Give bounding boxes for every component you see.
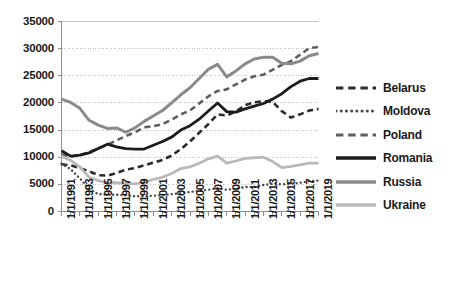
legend-swatch-belarus-icon — [336, 82, 376, 94]
x-tick-label: 1/1/2015 — [286, 178, 297, 218]
legend-item-belarus[interactable]: Belarus — [336, 76, 460, 100]
x-tick-label: 1/1/1991 — [66, 178, 77, 218]
x-tick-label: 1/1/2013 — [268, 178, 279, 218]
y-tick-label: 35000 — [2, 16, 54, 28]
legend-label: Romania — [383, 152, 432, 164]
x-tick-label: 1/1/1999 — [139, 178, 150, 218]
legend-item-russia[interactable]: Russia — [336, 170, 460, 194]
y-tick-label: 5000 — [2, 178, 54, 190]
x-tick-label: 1/1/2001 — [158, 178, 169, 218]
x-tick-label: 1/1/1997 — [121, 178, 132, 218]
legend-label: Belarus — [383, 82, 426, 94]
line-chart: 05000100001500020000250003000035000 1/1/… — [0, 0, 463, 292]
x-tick-label: 1/1/1995 — [103, 178, 114, 218]
legend-item-romania[interactable]: Romania — [336, 147, 460, 171]
legend-label: Poland — [383, 129, 422, 141]
series-line-romania — [62, 79, 319, 157]
legend-swatch-russia-icon — [336, 176, 376, 188]
legend-item-ukraine[interactable]: Ukraine — [336, 194, 460, 218]
legend-label: Ukraine — [383, 199, 426, 211]
x-tick-label: 1/1/2011 — [250, 179, 261, 219]
y-tick-label: 0 — [2, 206, 54, 218]
x-tick-label: 1/1/2005 — [195, 178, 206, 218]
legend-item-poland[interactable]: Poland — [336, 123, 460, 147]
series-line-ukraine — [62, 156, 319, 184]
chart-legend: BelarusMoldovaPolandRomaniaRussiaUkraine — [336, 76, 460, 217]
legend-label: Russia — [383, 176, 421, 188]
x-tick-label: 1/1/2017 — [305, 178, 316, 218]
x-tick-label: 1/1/2019 — [323, 178, 334, 218]
legend-label: Moldova — [383, 105, 430, 117]
x-tick-label: 1/1/2007 — [213, 178, 224, 218]
x-tick-label: 1/1/2009 — [231, 178, 242, 218]
x-tick-label: 1/1/2003 — [176, 178, 187, 218]
legend-swatch-ukraine-icon — [336, 199, 376, 211]
x-tick-label: 1/1/1993 — [84, 178, 95, 218]
legend-swatch-moldova-icon — [336, 105, 376, 117]
legend-swatch-poland-icon — [336, 129, 376, 141]
y-tick-label: 20000 — [2, 97, 54, 109]
y-tick-label: 15000 — [2, 124, 54, 136]
y-tick-label: 25000 — [2, 70, 54, 82]
legend-item-moldova[interactable]: Moldova — [336, 100, 460, 124]
series-line-belarus — [62, 101, 319, 175]
y-tick-label: 30000 — [2, 43, 54, 55]
y-tick-label: 10000 — [2, 151, 54, 163]
legend-swatch-romania-icon — [336, 152, 376, 164]
